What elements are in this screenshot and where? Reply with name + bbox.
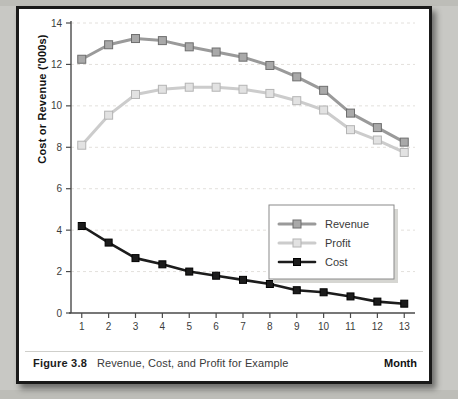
- y-tick-label: 10: [51, 100, 63, 111]
- legend-label-revenue: Revenue: [325, 218, 369, 230]
- y-tick-label: 2: [56, 266, 62, 277]
- data-point-revenue-9: [293, 73, 301, 81]
- data-point-revenue-7: [239, 53, 247, 61]
- data-point-cost-10: [320, 289, 327, 296]
- data-point-cost-11: [347, 293, 354, 300]
- page-bottom-edge: [0, 390, 458, 399]
- data-point-profit-7: [239, 85, 247, 93]
- x-tick-label: 9: [294, 321, 300, 332]
- y-tick-label: 12: [51, 59, 63, 70]
- data-point-profit-8: [266, 89, 274, 97]
- y-tick-label: 14: [51, 18, 63, 29]
- data-point-revenue-2: [105, 41, 113, 49]
- y-tick-label: 8: [56, 142, 62, 153]
- caption-divider: [25, 351, 423, 352]
- x-tick-label: 11: [345, 321, 356, 332]
- x-tick-label: 6: [213, 321, 219, 332]
- chart-plot-area: 0246810121412345678910111213RevenueProfi…: [19, 9, 429, 381]
- data-point-revenue-11: [347, 109, 355, 117]
- data-point-revenue-13: [400, 138, 408, 146]
- data-point-cost-2: [105, 239, 112, 246]
- y-tick-label: 6: [56, 183, 62, 194]
- data-point-cost-8: [266, 281, 273, 288]
- data-point-cost-12: [374, 298, 381, 305]
- data-point-revenue-1: [78, 55, 86, 63]
- data-point-revenue-8: [266, 61, 274, 69]
- x-tick-label: 10: [318, 321, 330, 332]
- x-tick-label: 8: [267, 321, 273, 332]
- x-tick-label: 4: [160, 321, 166, 332]
- data-point-revenue-10: [320, 86, 328, 94]
- data-point-cost-13: [401, 300, 408, 307]
- data-point-revenue-12: [373, 124, 381, 132]
- x-tick-label: 5: [186, 321, 192, 332]
- data-point-profit-13: [400, 148, 408, 156]
- x-tick-label: 13: [399, 321, 411, 332]
- data-point-profit-11: [347, 126, 355, 134]
- x-axis-title: Month: [384, 357, 417, 369]
- figure-caption-text: Revenue, Cost, and Profit for Example: [97, 357, 288, 369]
- y-tick-label: 4: [56, 225, 62, 236]
- data-point-profit-3: [132, 90, 140, 98]
- legend-marker-cost: [294, 259, 301, 266]
- y-tick-label: 0: [56, 308, 62, 319]
- data-point-cost-3: [132, 255, 139, 262]
- data-point-profit-2: [105, 111, 113, 119]
- data-point-profit-6: [212, 83, 220, 91]
- data-point-profit-1: [78, 141, 86, 149]
- data-point-profit-4: [158, 85, 166, 93]
- data-point-revenue-3: [132, 35, 140, 43]
- data-point-cost-5: [186, 268, 193, 275]
- x-tick-label: 7: [240, 321, 246, 332]
- legend-marker-profit: [293, 239, 301, 247]
- data-point-cost-6: [213, 272, 220, 279]
- data-point-cost-1: [78, 223, 85, 230]
- x-tick-label: 12: [372, 321, 384, 332]
- legend-label-profit: Profit: [325, 237, 351, 249]
- data-point-profit-12: [373, 136, 381, 144]
- figure-number: Figure 3.8: [33, 357, 87, 369]
- data-point-profit-5: [185, 83, 193, 91]
- data-point-profit-10: [320, 106, 328, 114]
- figure-container: 0246810121412345678910111213RevenueProfi…: [16, 6, 432, 384]
- series-line-profit: [82, 87, 405, 152]
- legend-marker-revenue: [293, 220, 301, 228]
- y-axis-title: Cost or Revenue ('000s): [36, 24, 48, 174]
- data-point-cost-4: [159, 261, 166, 268]
- data-point-cost-7: [240, 276, 247, 283]
- data-point-profit-9: [293, 97, 301, 105]
- data-point-revenue-5: [185, 43, 193, 51]
- figure-caption-row: Figure 3.8 Revenue, Cost, and Profit for…: [19, 351, 429, 377]
- line-chart: 0246810121412345678910111213RevenueProfi…: [19, 9, 429, 355]
- x-tick-label: 2: [106, 321, 112, 332]
- x-tick-label: 3: [133, 321, 139, 332]
- x-tick-label: 1: [79, 321, 85, 332]
- data-point-revenue-4: [158, 37, 166, 45]
- data-point-revenue-6: [212, 48, 220, 56]
- legend-label-cost: Cost: [325, 256, 348, 268]
- data-point-cost-9: [293, 287, 300, 294]
